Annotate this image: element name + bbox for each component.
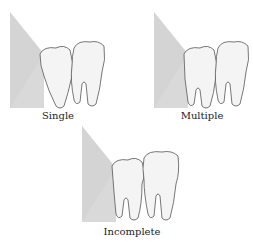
panel-multiple: Multiple [152, 10, 252, 122]
label-multiple: Multiple [152, 110, 252, 121]
multiple-fusion-teeth-illustration [152, 10, 252, 110]
panel-single: Single [8, 10, 108, 122]
label-single: Single [8, 110, 108, 121]
incomplete-fusion-teeth-illustration [80, 124, 184, 224]
single-fusion-teeth-illustration [8, 10, 108, 110]
label-incomplete: Incomplete [80, 226, 184, 237]
panel-incomplete: Incomplete [80, 124, 184, 242]
